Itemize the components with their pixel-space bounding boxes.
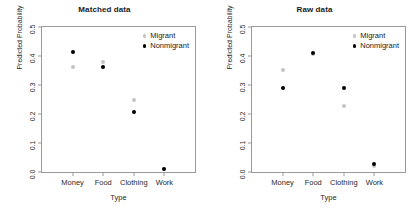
- legend-dot-nonmigrant-icon: [143, 44, 147, 48]
- x-tick-mark: [313, 172, 314, 176]
- legend-label-nonmigrant: Nonmigrant: [360, 41, 399, 51]
- legend-dot-nonmigrant-icon: [353, 44, 357, 48]
- data-point: [342, 104, 346, 108]
- y-tick-label: 0.3: [238, 76, 252, 94]
- x-tick-label: Clothing: [120, 178, 148, 187]
- y-axis-title: Predicted Probability: [16, 0, 23, 98]
- x-tick-mark: [343, 172, 344, 176]
- data-point: [71, 65, 75, 69]
- y-tick-label: 0.4: [238, 47, 252, 65]
- y-tick-label: 0.2: [238, 105, 252, 123]
- panel-matched-data: Matched data Predicted Probability Migra…: [0, 0, 209, 212]
- x-tick-label: Clothing: [330, 178, 358, 187]
- y-tick-label: 0.5: [238, 18, 252, 36]
- data-point: [311, 51, 315, 55]
- x-tick-mark: [282, 172, 283, 176]
- y-tick-label: 0.1: [238, 134, 252, 152]
- data-point: [342, 86, 346, 90]
- data-point: [281, 86, 285, 90]
- legend-item-nonmigrant: Nonmigrant: [143, 41, 189, 51]
- panel-title: Raw data: [210, 5, 419, 14]
- data-point: [281, 68, 285, 72]
- data-point: [162, 167, 166, 171]
- data-point: [71, 50, 75, 54]
- data-point: [101, 60, 105, 64]
- y-tick-label: 0.2: [28, 105, 42, 123]
- legend-item-nonmigrant: Nonmigrant: [353, 41, 399, 51]
- y-tick-label: 0.0: [238, 163, 252, 181]
- x-tick-mark: [133, 172, 134, 176]
- x-tick-mark: [374, 172, 375, 176]
- x-tick-mark: [103, 172, 104, 176]
- legend-item-migrant: Migrant: [143, 31, 189, 41]
- y-tick-label: 0.3: [28, 76, 42, 94]
- legend: Migrant Nonmigrant: [353, 31, 399, 51]
- plot-area: Migrant Nonmigrant 0.00.10.20.30.40.5Mon…: [251, 26, 406, 173]
- data-point: [372, 162, 376, 166]
- legend-dot-migrant-icon: [353, 34, 357, 38]
- x-tick-label: Money: [271, 178, 294, 187]
- x-tick-mark: [72, 172, 73, 176]
- y-axis-title: Predicted Probability: [226, 0, 233, 98]
- x-tick-label: Food: [305, 178, 322, 187]
- x-tick-label: Work: [156, 178, 173, 187]
- x-axis-title: Type: [41, 193, 196, 202]
- legend-item-migrant: Migrant: [353, 31, 399, 41]
- data-point: [101, 65, 105, 69]
- legend-label-nonmigrant: Nonmigrant: [150, 41, 189, 51]
- legend-label-migrant: Migrant: [150, 31, 175, 41]
- legend-label-migrant: Migrant: [360, 31, 385, 41]
- panel-title: Matched data: [0, 5, 209, 14]
- y-tick-label: 0.4: [28, 47, 42, 65]
- y-tick-label: 0.1: [28, 134, 42, 152]
- x-tick-mark: [164, 172, 165, 176]
- legend: Migrant Nonmigrant: [143, 31, 189, 51]
- y-tick-label: 0.0: [28, 163, 42, 181]
- x-axis-title: Type: [251, 193, 406, 202]
- figure-container: Matched data Predicted Probability Migra…: [0, 0, 419, 212]
- x-tick-label: Money: [61, 178, 84, 187]
- x-tick-label: Food: [95, 178, 112, 187]
- data-point: [132, 98, 136, 102]
- panel-raw-data: Raw data Predicted Probability Migrant N…: [210, 0, 419, 212]
- data-point: [132, 110, 136, 114]
- y-tick-label: 0.5: [28, 18, 42, 36]
- plot-area: Migrant Nonmigrant 0.00.10.20.30.40.5Mon…: [41, 26, 196, 173]
- legend-dot-migrant-icon: [143, 34, 147, 38]
- x-tick-label: Work: [366, 178, 383, 187]
